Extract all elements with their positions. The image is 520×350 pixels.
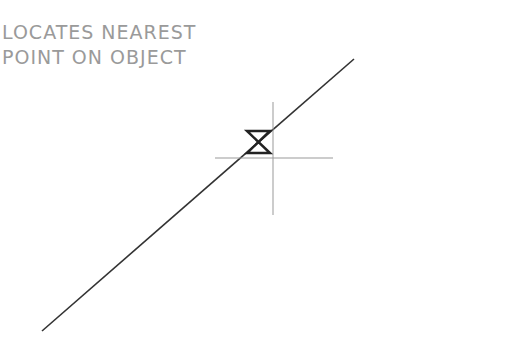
diagram-canvas — [0, 0, 520, 350]
crosshair-cursor — [215, 102, 333, 215]
object-line — [42, 59, 354, 331]
nearest-snap-marker-icon — [247, 131, 270, 153]
